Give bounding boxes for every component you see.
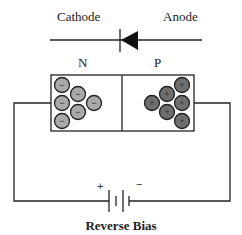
electron-carrier: − <box>55 96 70 111</box>
cathode-label: Cathode <box>57 9 101 24</box>
svg-text:+: + <box>179 80 184 90</box>
electron-carrier: − <box>55 114 70 129</box>
svg-text:+: + <box>179 98 184 108</box>
battery-negative-sign: − <box>136 178 142 190</box>
svg-text:+: + <box>164 89 169 99</box>
svg-text:−: − <box>59 98 64 108</box>
svg-text:−: − <box>75 107 80 117</box>
svg-text:+: + <box>179 116 184 126</box>
battery-positive-sign: + <box>97 180 103 192</box>
hole-carrier: + <box>175 96 190 111</box>
diode-triangle <box>121 31 138 50</box>
hole-carrier: + <box>145 96 160 111</box>
svg-text:−: − <box>59 80 64 90</box>
svg-text:−: − <box>75 89 80 99</box>
battery-symbol <box>109 190 129 212</box>
hole-carrier: + <box>175 78 190 93</box>
anode-label: Anode <box>163 9 198 24</box>
diagram-title: Reverse Bias <box>85 218 156 233</box>
electron-carrier: − <box>55 78 70 93</box>
diode-symbol <box>50 29 202 52</box>
hole-carrier: + <box>175 114 190 129</box>
electron-carrier: − <box>71 105 86 120</box>
hole-carrier: + <box>160 105 175 120</box>
svg-text:−: − <box>91 98 96 108</box>
reverse-bias-diagram: Cathode Anode N P −−−−−− ++++++ + − Reve… <box>0 0 242 235</box>
p-region-label: P <box>154 55 161 70</box>
svg-text:+: + <box>164 107 169 117</box>
hole-carrier: + <box>160 87 175 102</box>
svg-text:+: + <box>149 98 154 108</box>
electron-carrier: − <box>87 96 102 111</box>
electron-carrier: − <box>71 87 86 102</box>
svg-text:−: − <box>59 116 64 126</box>
n-region-label: N <box>78 55 88 70</box>
